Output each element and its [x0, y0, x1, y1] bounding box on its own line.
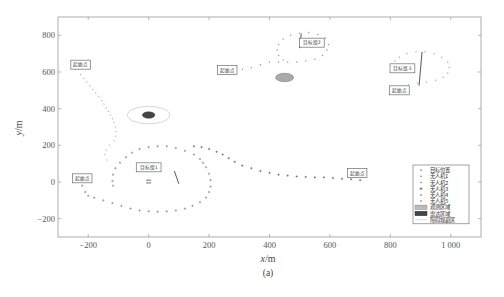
trajectory-point: [241, 164, 243, 166]
trajectory-point: [228, 157, 230, 159]
y-axis-title: y/m: [13, 120, 24, 136]
trajectory-point: [102, 199, 104, 201]
observation-area: [276, 73, 294, 81]
trajectory-point: [114, 167, 116, 169]
trajectory-point: [148, 146, 150, 148]
trajectory-point: [138, 148, 140, 150]
start-point-label: 起始点: [72, 174, 92, 183]
legend-dot-icon: [420, 169, 422, 171]
trajectory-point: [175, 147, 177, 149]
trajectory-point: [208, 148, 210, 150]
trajectory-point: [277, 174, 279, 176]
trajectory-point: [83, 78, 85, 80]
trajectory-point: [106, 159, 108, 161]
trajectory-point: [208, 173, 210, 175]
target-heading-line: [174, 171, 179, 184]
trajectory-point: [111, 180, 113, 182]
trajectory-point: [442, 77, 444, 79]
trajectory-point: [326, 49, 328, 51]
trajectory-point: [234, 161, 236, 163]
obstacle-layer: [127, 73, 293, 124]
trajectory-point: [350, 178, 352, 180]
trajectory-uav-2: [81, 145, 212, 213]
target-group-1: [146, 171, 179, 184]
trajectory-point: [278, 55, 280, 57]
trajectory-point: [205, 166, 207, 168]
trajectory-point: [282, 59, 284, 61]
trajectory-point: [441, 57, 443, 59]
target-group-label: 目标组2: [299, 38, 324, 47]
y-tick-label: 800: [42, 30, 55, 40]
trajectory-point: [341, 178, 343, 180]
trajectory-point: [314, 176, 316, 178]
trajectory-point: [299, 32, 301, 34]
trajectory-point: [106, 149, 108, 151]
trajectory-point: [216, 151, 218, 153]
trajectory-point: [424, 51, 426, 53]
label-text: 目标组1: [140, 164, 158, 171]
trajectory-point: [80, 74, 82, 76]
trajectory-point: [260, 64, 262, 66]
trajectory-point: [84, 191, 86, 193]
legend-label: 障碍规避区: [430, 216, 456, 224]
trajectory-point: [86, 81, 88, 83]
x-tick-label: 400: [263, 240, 276, 250]
trajectory-point: [104, 154, 106, 156]
x-tick-label: 1 000: [441, 240, 460, 250]
trajectory-point: [317, 34, 319, 36]
y-axis-unit: /m: [13, 120, 24, 131]
trajectory-point: [89, 85, 91, 87]
x-tick-label: 600: [324, 240, 337, 250]
trajectory-point: [290, 35, 292, 37]
trajectory-point: [108, 111, 110, 113]
annotation-labels: 起始点起始点起始点起始点起始点目标组1目标组2目标组3: [71, 38, 415, 183]
trajectory-point: [103, 103, 105, 105]
trajectory-point: [276, 49, 278, 51]
trajectory-point: [447, 72, 449, 74]
trajectory-point: [325, 37, 327, 39]
trajectory-point: [113, 122, 115, 124]
trajectory-point: [359, 179, 361, 181]
trajectory-point: [98, 96, 100, 98]
label-text: 起始点: [350, 170, 365, 177]
trajectory-point: [308, 32, 310, 34]
x-tick-label: −200: [79, 240, 97, 250]
trajectory-point: [287, 174, 289, 176]
target-group-label: 目标组3: [390, 64, 415, 73]
label-text: 起始点: [73, 61, 88, 68]
trajectory-point: [417, 82, 419, 84]
trajectory-point: [242, 69, 244, 71]
legend-dark-patch-icon: [415, 211, 427, 215]
trajectory-point: [282, 38, 284, 40]
y-tick-label: 200: [42, 140, 55, 150]
trajectory-point: [157, 211, 159, 213]
trajectory-point: [200, 146, 202, 148]
trajectory-point: [209, 185, 211, 187]
trajectory-point: [394, 60, 396, 62]
trajectory-point: [120, 205, 122, 207]
trajectory-point: [138, 209, 140, 211]
trajectory-point: [87, 195, 89, 197]
trajectory-point: [259, 170, 261, 172]
trajectory-point: [205, 196, 207, 198]
trajectory-point: [278, 61, 280, 63]
trajectory-point: [184, 207, 186, 209]
trajectory-point: [193, 145, 195, 147]
start-point-label: 起始点: [71, 60, 91, 69]
trajectory-point: [113, 140, 115, 142]
trajectory-point: [323, 176, 325, 178]
trajectory-point: [191, 205, 193, 207]
trajectory-point: [110, 114, 112, 116]
radar-area: [142, 112, 155, 118]
y-tick-label: 400: [42, 104, 55, 114]
trajectory-point: [208, 191, 210, 193]
start-point-label: 起始点: [390, 86, 410, 95]
start-point-label: 起始点: [217, 66, 237, 75]
trajectory-point: [209, 179, 211, 181]
trajectory-point: [406, 53, 408, 55]
legend-dot-icon: [420, 176, 422, 178]
trajectory-point: [250, 167, 252, 169]
trajectory-point: [251, 67, 253, 69]
trajectory-point: [433, 53, 435, 55]
trajectory-point: [222, 153, 224, 155]
